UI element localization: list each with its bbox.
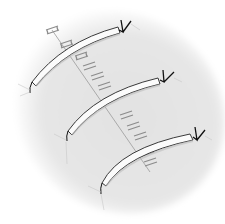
illustration — [0, 0, 225, 224]
suture-illustration-svg — [0, 0, 225, 224]
